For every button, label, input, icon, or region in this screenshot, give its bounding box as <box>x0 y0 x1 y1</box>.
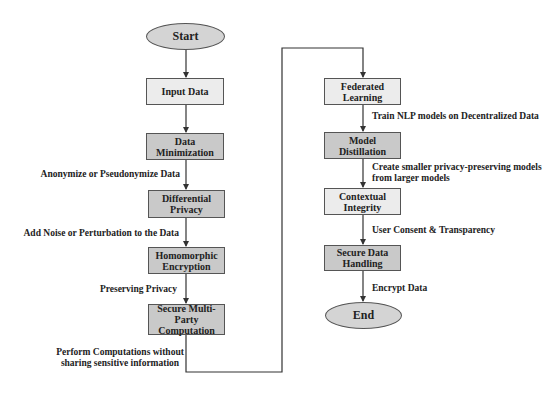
homomorphic-encryption-line2: Encryption <box>162 261 210 272</box>
connector-lines <box>0 0 560 395</box>
model-distillation-node: Model Distillation <box>324 132 401 159</box>
start-terminal: Start <box>146 23 225 50</box>
end-terminal: End <box>325 302 402 329</box>
secure-mpc-line2: Computation <box>158 325 215 336</box>
homomorphic-encryption-node: Homomorphic Encryption <box>148 247 225 274</box>
input-data-node: Input Data <box>146 78 224 105</box>
perform-computations-line2: sharing sensitive information <box>61 358 179 368</box>
edge-label-perform-computations: Perform Computations without sharing sen… <box>56 347 184 369</box>
homomorphic-encryption-line1: Homomorphic <box>155 250 217 261</box>
differential-privacy-line2: Privacy <box>170 204 203 215</box>
federated-learning-line2: Learning <box>343 92 382 103</box>
privacy-flowchart: Start Input Data Data Minimization Diffe… <box>0 0 560 395</box>
secure-data-handling-line1: Secure Data <box>337 247 389 258</box>
data-minimization-line1: Data <box>175 136 196 147</box>
end-label: End <box>351 310 376 321</box>
secure-data-handling-node: Secure Data Handling <box>324 245 401 271</box>
federated-learning-node: Federated Learning <box>324 78 401 105</box>
create-smaller-line1: Create smaller privacy-preserving models <box>372 162 542 172</box>
create-smaller-line2: from larger models <box>372 173 450 183</box>
federated-learning-line1: Federated <box>341 81 384 92</box>
input-data-label: Input Data <box>160 86 211 97</box>
contextual-integrity-line1: Contextual <box>339 191 386 202</box>
contextual-integrity-node: Contextual Integrity <box>324 188 401 215</box>
edge-label-user-consent: User Consent & Transparency <box>372 225 495 236</box>
differential-privacy-node: Differential Privacy <box>148 190 225 218</box>
model-distillation-line2: Distillation <box>339 146 386 157</box>
differential-privacy-line1: Differential <box>162 193 211 204</box>
edge-label-train-nlp: Train NLP models on Decentralized Data <box>372 111 539 122</box>
perform-computations-line1: Perform Computations without <box>56 347 184 357</box>
edge-label-create-smaller: Create smaller privacy-preserving models… <box>372 162 542 184</box>
secure-mpc-node: Secure Multi-Party Computation <box>148 304 225 335</box>
data-minimization-line2: Minimization <box>156 147 214 158</box>
model-distillation-line1: Model <box>349 135 376 146</box>
start-label: Start <box>171 31 201 42</box>
secure-data-handling-line2: Handling <box>342 258 382 269</box>
edge-label-encrypt: Encrypt Data <box>372 283 427 294</box>
edge-label-preserving: Preserving Privacy <box>100 284 177 295</box>
secure-mpc-line1: Secure Multi-Party <box>157 303 215 325</box>
edge-label-anonymize: Anonymize or Pseudonymize Data <box>41 169 180 180</box>
data-minimization-node: Data Minimization <box>146 133 224 160</box>
edge-label-add-noise: Add Noise or Perturbation to the Data <box>23 228 179 239</box>
contextual-integrity-line2: Integrity <box>344 202 382 213</box>
